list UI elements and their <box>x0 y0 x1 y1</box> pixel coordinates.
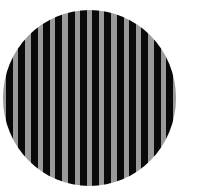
striped-circle-grating <box>3 10 176 186</box>
